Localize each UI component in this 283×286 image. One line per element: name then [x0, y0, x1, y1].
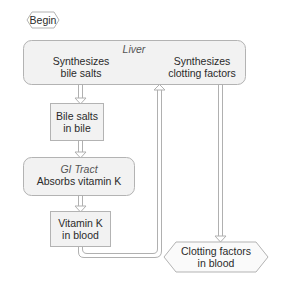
- vitamin-k-line2: in blood: [50, 229, 111, 241]
- gi-tract-line1: Absorbs vitamin K: [23, 175, 135, 187]
- bile-salts-line1: Bile salts: [50, 110, 104, 122]
- bile-salts-line2: in bile: [50, 122, 104, 134]
- arrow-liver-clotting-to-clotting-blood: [215, 85, 226, 243]
- liver-bile-line1: Synthesizes: [40, 55, 122, 67]
- liver-synthesizes-bile-salts: Synthesizes bile salts: [40, 55, 122, 79]
- gi-tract-section-label: GI Tract: [23, 163, 135, 175]
- liver-synthesizes-clotting-factors: Synthesizes clotting factors: [158, 55, 246, 79]
- clotting-blood-node: Clotting factors in blood: [168, 245, 264, 269]
- liver-section-label: Liver: [23, 43, 245, 55]
- bile-salts-node: Bile salts in bile: [50, 110, 104, 134]
- liver-bile-line2: bile salts: [40, 67, 122, 79]
- arrow-bile-salts-to-gi-tract: [75, 141, 86, 159]
- arrow-liver-to-bile-salts: [75, 85, 86, 105]
- vitamin-k-line1: Vitamin K: [50, 217, 111, 229]
- arrow-gi-tract-to-vitamin-k: [75, 196, 86, 213]
- begin-label: Begin: [30, 14, 57, 26]
- begin-node: Begin: [27, 14, 59, 26]
- liver-clotting-line2: clotting factors: [158, 67, 246, 79]
- gi-tract-node: GI Tract Absorbs vitamin K: [23, 163, 135, 187]
- clotting-blood-line2: in blood: [168, 257, 264, 269]
- vitamin-k-node: Vitamin K in blood: [50, 217, 111, 241]
- clotting-blood-line1: Clotting factors: [168, 245, 264, 257]
- liver-clotting-line1: Synthesizes: [158, 55, 246, 67]
